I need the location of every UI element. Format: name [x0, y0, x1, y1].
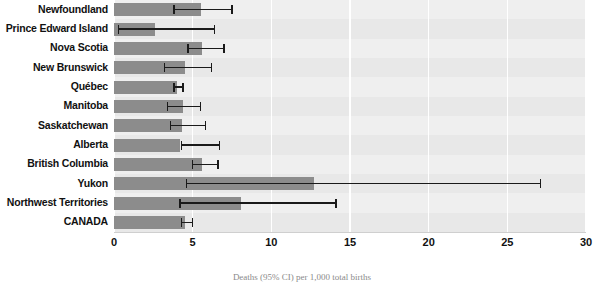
- tick-label-30: 30: [580, 236, 592, 248]
- error-bar-line: [167, 106, 200, 108]
- error-bar-line: [180, 202, 336, 204]
- category-label: Québec: [0, 81, 108, 92]
- error-bar-cap-low: [167, 102, 169, 111]
- bar: [114, 139, 180, 152]
- error-bar-cap-low: [181, 141, 183, 150]
- error-bar-line: [186, 183, 540, 185]
- error-bar-cap-high: [335, 199, 337, 208]
- error-bar-cap-high: [223, 44, 225, 53]
- bar: [114, 216, 185, 229]
- error-bar-cap-high: [214, 25, 216, 34]
- error-bar-line: [174, 9, 232, 11]
- gridline-x-10: [271, 0, 273, 232]
- tick-label-15: 15: [344, 236, 356, 248]
- error-bar-cap-high: [200, 102, 202, 111]
- category-label: CANADA: [0, 216, 108, 227]
- error-bar-cap-high: [219, 141, 221, 150]
- chart-figure: NewfoundlandPrince Edward IslandNova Sco…: [0, 0, 604, 283]
- tick-label-20: 20: [423, 236, 435, 248]
- category-label: Alberta: [0, 139, 108, 150]
- error-bar-cap-high: [192, 218, 194, 227]
- error-bar-line: [171, 125, 206, 127]
- category-label-column: NewfoundlandPrince Edward IslandNova Sco…: [0, 0, 114, 232]
- bar: [114, 81, 177, 94]
- error-bar-cap-high: [231, 5, 233, 14]
- category-label: British Columbia: [0, 158, 108, 169]
- chart-caption: Deaths (95% CI) per 1,000 total births: [0, 272, 604, 282]
- error-bar-cap-low: [186, 179, 188, 188]
- tick-label-25: 25: [501, 236, 513, 248]
- error-bar-cap-high: [217, 160, 219, 169]
- category-label: Northwest Territories: [0, 197, 108, 208]
- error-bar-cap-low: [187, 44, 189, 53]
- error-bar-cap-low: [181, 218, 183, 227]
- tick-label-0: 0: [111, 236, 117, 248]
- x-axis-line: [114, 232, 586, 233]
- error-bar-line: [182, 144, 220, 146]
- error-bar-cap-high: [205, 121, 207, 130]
- error-bar-cap-low: [118, 25, 120, 34]
- category-label: Saskatchewan: [0, 120, 108, 131]
- error-bar-cap-low: [179, 199, 181, 208]
- error-bar-line: [188, 48, 224, 50]
- category-label: Prince Edward Island: [0, 23, 108, 34]
- category-label: Newfoundland: [0, 4, 108, 15]
- error-bar-cap-low: [170, 121, 172, 130]
- error-bar-cap-low: [173, 5, 175, 14]
- error-bar-line: [164, 67, 211, 69]
- error-bar-line: [119, 28, 215, 30]
- tick-label-10: 10: [265, 236, 277, 248]
- gridline-x-25: [507, 0, 509, 232]
- error-bar-cap-low: [192, 160, 194, 169]
- category-label: Manitoba: [0, 100, 108, 111]
- plot-area: [114, 0, 586, 232]
- category-label: Nova Scotia: [0, 42, 108, 53]
- error-bar-line: [193, 164, 218, 166]
- error-bar-cap-high: [540, 179, 542, 188]
- error-bar-cap-high: [182, 83, 184, 92]
- bar: [114, 158, 202, 171]
- error-bar-cap-low: [164, 63, 166, 72]
- gridline-x-20: [428, 0, 430, 232]
- category-label: Yukon: [0, 178, 108, 189]
- gridline-x-30: [585, 0, 587, 232]
- error-bar-cap-low: [173, 83, 175, 92]
- tick-label-5: 5: [190, 236, 196, 248]
- error-bar-cap-high: [211, 63, 213, 72]
- gridline-x-15: [349, 0, 351, 232]
- category-label: New Brunswick: [0, 62, 108, 73]
